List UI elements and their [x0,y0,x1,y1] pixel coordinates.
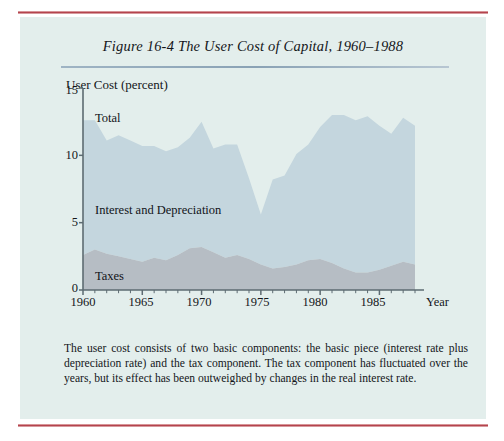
series-label-total: Total [95,111,121,126]
x-tick-1975: 1975 [235,295,279,310]
figure-page: Figure 16-4 The User Cost of Capital, 19… [0,0,504,441]
x-tick-1980: 1980 [293,295,337,310]
figure-caption: The user cost consists of two basic comp… [64,341,468,387]
y-tick-0: 0 [52,281,78,296]
x-tick-1970: 1970 [177,295,221,310]
top-rule [18,11,488,14]
x-axis-label: Year [426,295,449,310]
x-tick-1960: 1960 [61,295,105,310]
x-tick-1985: 1985 [351,295,395,310]
y-tick-10: 10 [52,148,78,163]
y-tick-5: 5 [52,215,78,230]
y-tick-15: 15 [52,83,78,98]
x-tick-1965: 1965 [119,295,163,310]
area-interest-and-depreciation [83,115,415,273]
bottom-rule [18,424,488,427]
series-label-taxes: Taxes [95,269,124,284]
figure-panel: Figure 16-4 The User Cost of Capital, 19… [20,17,486,419]
series-label-interest: Interest and Depreciation [95,203,221,218]
